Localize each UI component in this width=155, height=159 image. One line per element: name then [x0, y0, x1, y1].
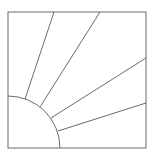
quarter-circle-arc — [8, 96, 60, 148]
diagram-canvas — [0, 0, 155, 159]
rays-group — [25, 12, 146, 131]
ray-line-4 — [58, 103, 146, 131]
outer-square — [8, 12, 146, 148]
ray-line-1 — [25, 12, 54, 99]
